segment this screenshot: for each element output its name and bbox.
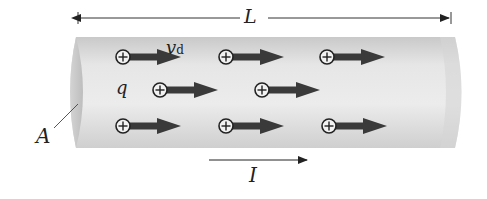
current-label: I bbox=[249, 163, 257, 187]
charge-label: q bbox=[116, 77, 128, 98]
drift-velocity-label: vd bbox=[166, 37, 184, 58]
diagram-graphics bbox=[0, 0, 487, 199]
drift-velocity-subscript: d bbox=[176, 43, 184, 57]
length-label: L bbox=[244, 5, 257, 27]
length-dimension bbox=[78, 12, 451, 24]
wire-diagram: L vd q A I bbox=[0, 0, 487, 199]
area-label: A bbox=[36, 124, 50, 148]
drift-velocity-symbol: v bbox=[166, 37, 176, 58]
